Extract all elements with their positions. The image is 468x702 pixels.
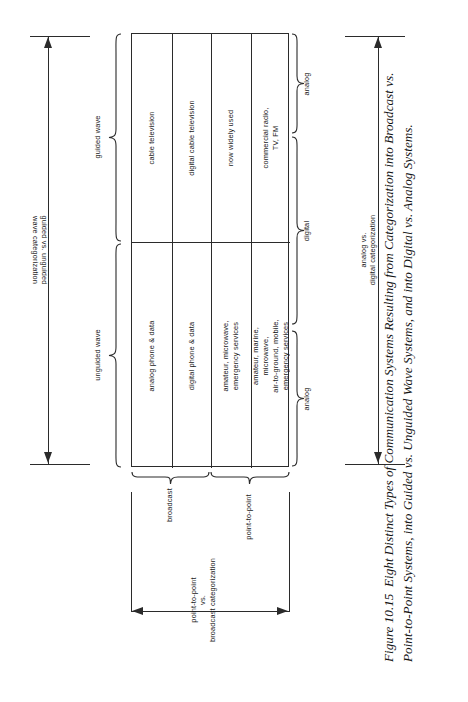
- brace-label-broadcast: broadcast: [165, 488, 174, 522]
- matrix-cell-p2p-analog-phone-data: analog phone & data: [132, 242, 172, 468]
- matrix-cell-p2p-amateur-microwave: amateur, microwave,emergency services: [211, 242, 251, 468]
- brace-label-analog-unguided: analog: [302, 387, 311, 410]
- axis-label-line1: analog vs.: [359, 232, 368, 267]
- matrix-cell-broadcast-cable-television: cable television: [132, 34, 172, 242]
- brace-label-unguided-wave: unguided wave: [93, 329, 102, 381]
- cell-text: now widely used: [226, 110, 236, 166]
- arrowhead-down-icon: [44, 452, 52, 463]
- cell-text: amateur, marine,microwave,air-to-ground,…: [251, 319, 290, 393]
- figure-caption-text: Eight Distinct Types of Communication Sy…: [381, 73, 415, 663]
- axis-label-line1: guided vs. unguided: [40, 215, 49, 284]
- cell-text: amateur, microwave,emergency services: [221, 320, 241, 391]
- cell-text: cable television: [147, 112, 157, 165]
- arrowhead-up-icon: [44, 37, 52, 48]
- arrowhead-right-icon: [277, 607, 288, 615]
- brace-point-to-point: [210, 470, 290, 486]
- category-matrix: cable television digital cable televisio…: [131, 33, 289, 467]
- brace-label-analog-guided: analog: [302, 72, 311, 95]
- axis-label-line1: point-to-point: [189, 577, 198, 622]
- cell-text: analog phone & data: [147, 320, 157, 391]
- brace-unguided-wave: [107, 243, 123, 468]
- axis-label-p2p-broadcast: point-to-point vs. broadcast categorizat…: [189, 558, 217, 642]
- matrix-cell-p2p-amateur-marine: amateur, marine,microwave,air-to-ground,…: [251, 242, 291, 468]
- brace-label-digital: digital: [302, 221, 311, 241]
- cell-text: digital phone & data: [187, 321, 197, 389]
- cell-text: commercial radio,TV, FM: [261, 108, 281, 169]
- axis-label-line2: digital categorization: [368, 215, 377, 286]
- brace-broadcast: [131, 470, 210, 486]
- axis-label-line2: vs.: [198, 595, 207, 605]
- arrowhead-left-icon: [132, 607, 143, 615]
- axis-label-guided-unguided: guided vs. unguided wave categorization: [31, 215, 50, 284]
- brace-guided-wave: [107, 33, 123, 242]
- axis-label-line2: wave categorization: [31, 216, 40, 284]
- axis-label-analog-digital: analog vs. digital categorization: [359, 215, 378, 286]
- brace-label-guided-wave: guided wave: [93, 115, 102, 158]
- brace-label-point-to-point: point-to-point: [244, 494, 253, 539]
- matrix-cell-p2p-digital-phone-data: digital phone & data: [172, 242, 212, 468]
- cell-text: digital cable television: [187, 100, 197, 176]
- axis-label-line3: broadcast categorization: [208, 558, 217, 642]
- matrix-cell-broadcast-digital-cable-television: digital cable television: [172, 34, 212, 242]
- figure-number: Figure 10.15: [381, 594, 396, 662]
- matrix-cell-broadcast-commercial-radio: commercial radio,TV, FM: [251, 34, 291, 242]
- figure-caption: Figure 10.15 Eight Distinct Types of Com…: [379, 42, 417, 662]
- matrix-cell-broadcast-now-widely-used: now widely used: [211, 34, 251, 242]
